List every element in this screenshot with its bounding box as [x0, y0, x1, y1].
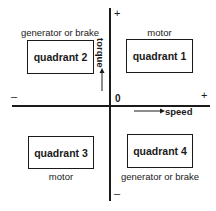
quadrant-2-box: quadrant 2 — [27, 40, 94, 74]
quadrant-1-mode: motor — [126, 27, 193, 38]
speed-positive-sign: + — [201, 90, 207, 101]
quadrant-2-mode: generator or brake — [2, 27, 118, 38]
quadrant-4-box: quadrant 4 — [127, 134, 193, 168]
quadrant-4-label: quadrant 4 — [133, 145, 187, 157]
torque-positive-sign: + — [114, 8, 120, 19]
quadrant-3-box: quadrant 3 — [28, 136, 94, 169]
speed-negative-sign: – — [11, 91, 17, 102]
origin-label: 0 — [115, 93, 121, 104]
speed-label: speed — [165, 106, 192, 117]
quadrant-3-mode: motor — [28, 171, 94, 182]
quadrant-1-box: quadrant 1 — [126, 39, 193, 73]
torque-arrow-icon — [98, 68, 106, 92]
quadrant-4-mode: generator or brake — [114, 171, 206, 182]
quadrant-3-label: quadrant 3 — [34, 147, 88, 159]
quadrant-1-label: quadrant 1 — [133, 50, 187, 62]
quadrant-2-label: quadrant 2 — [34, 51, 88, 63]
torque-negative-sign: – — [114, 188, 120, 199]
speed-arrow-icon — [134, 107, 166, 115]
torque-label: torque — [95, 38, 106, 68]
